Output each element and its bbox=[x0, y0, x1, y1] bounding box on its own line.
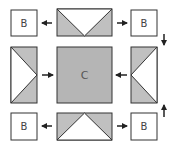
center-label: C bbox=[81, 69, 89, 82]
quilt-block-assembly-diagram: B B C B B bbox=[0, 0, 180, 150]
box-b-bottom-right: B bbox=[131, 113, 157, 140]
piece-bottom-flying-geese bbox=[57, 113, 112, 140]
piece-top-flying-geese bbox=[57, 9, 112, 36]
box-b-label: B bbox=[141, 18, 148, 29]
box-b-label: B bbox=[21, 121, 28, 132]
center-square-c: C bbox=[57, 47, 112, 103]
box-b-top-left: B bbox=[11, 10, 37, 36]
box-b-bottom-left: B bbox=[11, 113, 37, 140]
piece-right-flying-geese bbox=[131, 47, 157, 103]
box-b-top-right: B bbox=[131, 10, 157, 36]
piece-left-flying-geese bbox=[11, 47, 37, 103]
box-b-label: B bbox=[21, 18, 28, 29]
box-b-label: B bbox=[141, 121, 148, 132]
